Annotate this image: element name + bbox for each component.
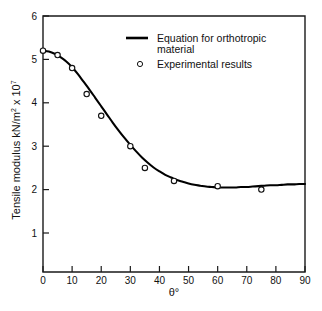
experimental-data-points xyxy=(40,48,264,192)
y-tick-label-4: 4 xyxy=(31,97,37,108)
data-point xyxy=(142,165,147,170)
y-axis-title-mid: x 10 xyxy=(10,84,22,108)
y-tick-label-5: 5 xyxy=(31,54,37,65)
x-tick-label-60: 60 xyxy=(212,275,224,286)
data-point xyxy=(40,48,45,53)
x-axis-ticks: 0102030405060708090 xyxy=(40,266,311,286)
x-tick-label-0: 0 xyxy=(40,275,46,286)
data-point xyxy=(128,144,133,149)
figure-container: 123456 0102030405060708090 Equation for … xyxy=(0,0,322,311)
legend-label-experimental: Experimental results xyxy=(157,58,252,70)
data-point xyxy=(215,183,220,188)
x-tick-label-10: 10 xyxy=(67,275,79,286)
tensile-modulus-chart: 123456 0102030405060708090 Equation for … xyxy=(0,0,322,311)
y-axis-ticks: 123456 xyxy=(31,11,49,239)
chart-legend: Equation for orthotropic material Experi… xyxy=(126,32,266,70)
data-point xyxy=(171,178,176,183)
y-tick-label-3: 3 xyxy=(31,141,37,152)
x-tick-label-80: 80 xyxy=(270,275,282,286)
y-tick-label-2: 2 xyxy=(31,184,37,195)
y-axis-title: Tensile modulus kN/m2 x 107 xyxy=(10,80,22,219)
data-point xyxy=(259,187,264,192)
model-curve-line xyxy=(43,51,305,188)
data-point xyxy=(55,52,60,57)
data-point xyxy=(99,113,104,118)
x-tick-label-50: 50 xyxy=(183,275,195,286)
data-point xyxy=(84,91,89,96)
x-axis-title: θ° xyxy=(169,286,180,298)
x-tick-label-90: 90 xyxy=(299,275,311,286)
y-axis-title-sup-exp: 7 xyxy=(10,80,17,84)
x-tick-label-40: 40 xyxy=(154,275,166,286)
y-tick-label-1: 1 xyxy=(31,228,37,239)
x-tick-label-20: 20 xyxy=(96,275,108,286)
y-tick-label-6: 6 xyxy=(31,11,37,22)
x-tick-label-30: 30 xyxy=(125,275,137,286)
legend-label-equation-line2: material xyxy=(157,43,194,55)
legend-circle-swatch xyxy=(137,61,142,66)
x-tick-label-70: 70 xyxy=(241,275,253,286)
data-point xyxy=(69,65,74,70)
y-axis-title-main: Tensile modulus kN/m xyxy=(10,112,22,220)
